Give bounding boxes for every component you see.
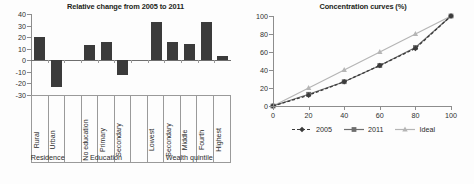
bar-chart-x-tick [98, 60, 99, 63]
legend-marker-triangle-icon [394, 125, 416, 134]
legend-label: 2011 [368, 125, 383, 134]
bar-chart-y-tick-label: 30 [18, 21, 26, 30]
bar [201, 22, 212, 60]
line-chart-x-tick-label: 80 [411, 111, 419, 120]
bar [184, 44, 195, 60]
bar-chart-y-tick [27, 72, 31, 73]
bar [84, 45, 95, 60]
legend-item-2005[interactable]: 2005 [291, 125, 332, 134]
bar-chart-x-tick [148, 60, 149, 63]
legend-item-Ideal[interactable]: Ideal [394, 125, 435, 134]
legend-marker-square-icon [343, 125, 365, 134]
line-chart-y-tick [269, 16, 273, 17]
line-chart-x-tick [344, 106, 345, 110]
series-line [273, 16, 451, 106]
bar-chart-x-tick [198, 60, 199, 63]
bar-chart-plot-area: 403020100-10-20-30 [31, 14, 231, 95]
line-chart-x-axis [273, 106, 451, 107]
category-label: Highest [215, 128, 222, 152]
category-group-label: Education [81, 152, 131, 163]
line-chart-legend: 20052011Ideal [283, 122, 443, 136]
bar-chart-y-tick-label: 10 [18, 44, 26, 53]
category-label: Lowest [148, 129, 155, 151]
bar-chart-x-tick [214, 60, 215, 63]
bar-chart-title: Relative change from 2005 to 2011 [18, 2, 233, 11]
line-chart-y-axis [273, 16, 274, 106]
bar-chart-y-tick [27, 83, 31, 84]
bar-chart-y-tick [27, 37, 31, 38]
bar [117, 60, 128, 75]
line-chart-x-tick [273, 106, 274, 110]
bar-chart-x-tick [114, 60, 115, 63]
legend-item-2011[interactable]: 2011 [343, 125, 383, 134]
bar-chart-y-tick-label: -30 [16, 91, 26, 100]
bar-chart-x-tick [81, 60, 82, 63]
data-point-marker [299, 126, 305, 132]
legend-marker-diamond-icon [291, 125, 313, 134]
line-chart-plot-area: 020406080100020406080100 [273, 16, 451, 106]
line-chart-y-tick-label: 20 [260, 84, 268, 93]
line-chart-y-tick-label: 40 [260, 66, 268, 75]
bar [51, 60, 62, 87]
bar-chart-x-tick [164, 60, 165, 63]
series-Ideal [270, 13, 453, 108]
bar-chart-y-tick [27, 26, 31, 27]
bar-chart-x-tick [181, 60, 182, 63]
bar-chart-y-tick-label: 0 [22, 56, 26, 65]
line-chart-y-tick-label: 60 [260, 48, 268, 57]
category-label: Primary [99, 128, 106, 152]
line-chart-x-tick-label: 20 [305, 111, 313, 120]
bar [151, 22, 162, 60]
line-chart-y-tick [269, 70, 273, 71]
bar-chart-y-tick-label: 20 [18, 33, 26, 42]
bar-chart-y-tick [27, 49, 31, 50]
category-label: Fourth [198, 130, 205, 150]
legend-label: 2005 [316, 125, 332, 134]
legend-label: Ideal [419, 125, 435, 134]
line-chart-x-tick-label: 40 [340, 111, 348, 120]
figure-container: Relative change from 2005 to 2011 403020… [0, 0, 474, 184]
line-chart-x-tick [415, 106, 416, 110]
category-group-spacer [64, 152, 81, 163]
bar [34, 37, 45, 60]
line-chart-y-tick-label: 0 [264, 102, 268, 111]
concentration-curves-svg [273, 16, 451, 106]
bar-chart-x-tick [64, 60, 65, 63]
line-chart-y-tick-label: 80 [260, 30, 268, 39]
bar [101, 42, 112, 61]
line-chart-x-tick-label: 100 [445, 111, 457, 120]
bar [167, 42, 178, 61]
bar-chart-y-axis [31, 14, 32, 95]
line-chart-x-tick [451, 106, 452, 110]
line-chart-y-tick-label: 100 [256, 12, 268, 21]
bar-chart-y-tick-label: 40 [18, 10, 26, 19]
category-label: Middle [181, 130, 188, 151]
category-group-row: ResidenceEducationWealth quintile [31, 152, 231, 163]
line-chart-x-tick [380, 106, 381, 110]
bar-chart-panel: Relative change from 2005 to 2011 403020… [0, 0, 238, 184]
category-label: Rural [33, 132, 40, 149]
bar-chart-y-tick [27, 14, 31, 15]
category-group-label: Wealth quintile [148, 152, 231, 163]
line-chart-x-tick-label: 0 [271, 111, 275, 120]
category-group-spacer [131, 152, 148, 163]
line-chart-y-tick [269, 88, 273, 89]
bar [217, 56, 228, 61]
category-group-label: Residence [31, 152, 64, 163]
bar-chart-y-tick-label: -20 [16, 79, 26, 88]
line-chart-x-tick [309, 106, 310, 110]
bar-chart-x-tick [131, 60, 132, 63]
category-label: Urban [49, 130, 56, 149]
data-point-marker [352, 127, 357, 132]
bar-chart-y-tick-label: -10 [16, 67, 26, 76]
line-chart-y-tick [269, 52, 273, 53]
line-chart-y-tick [269, 34, 273, 35]
bar-chart-x-tick [48, 60, 49, 63]
line-chart-x-tick-label: 60 [376, 111, 384, 120]
line-chart-title: Concentration curves (%) [258, 2, 468, 11]
